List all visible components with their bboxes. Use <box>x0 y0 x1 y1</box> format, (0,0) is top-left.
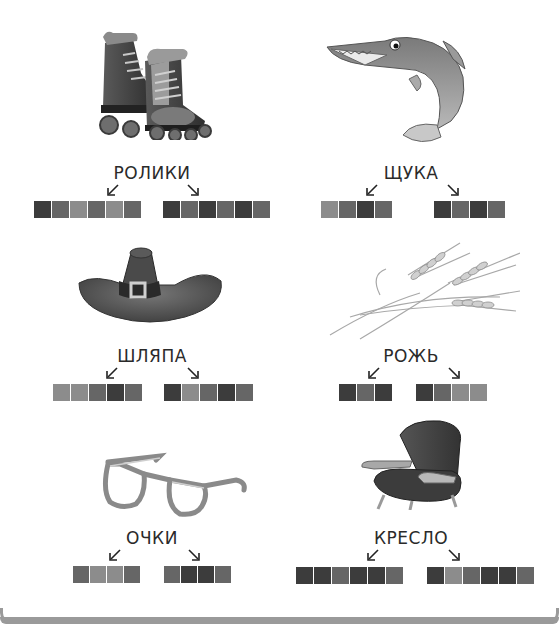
word-label: РОЛИКИ <box>114 163 191 183</box>
sound-block <box>445 567 462 584</box>
right-syllable-strip <box>416 384 487 401</box>
sound-block <box>470 201 487 218</box>
sound-block <box>499 567 516 584</box>
glasses-picture <box>100 450 250 520</box>
sound-block <box>375 201 392 218</box>
left-syllable-strip <box>73 566 140 583</box>
arrow-down-left-icon <box>365 183 379 197</box>
sound-block <box>517 567 534 584</box>
sound-block <box>321 201 338 218</box>
sound-block <box>89 384 106 401</box>
sound-block <box>368 567 385 584</box>
sound-block <box>332 567 349 584</box>
pike-fish-picture <box>325 25 495 145</box>
sound-block <box>427 567 444 584</box>
arrow-down-left-icon <box>108 548 122 562</box>
right-syllable-strip <box>163 201 270 218</box>
word-label: ОЧКИ <box>126 528 178 548</box>
sound-block <box>52 201 69 218</box>
word-label: ЩУКА <box>384 163 439 183</box>
sound-block <box>452 201 469 218</box>
armchair-picture <box>360 415 470 510</box>
sound-block <box>181 201 198 218</box>
sound-block <box>350 567 367 584</box>
sound-block <box>90 566 106 583</box>
sound-block <box>339 201 356 218</box>
sound-block <box>70 201 87 218</box>
sound-block <box>199 201 216 218</box>
sound-block <box>296 567 313 584</box>
sound-block <box>488 201 505 218</box>
sound-block <box>200 384 217 401</box>
sound-block <box>88 201 105 218</box>
sound-block <box>73 566 89 583</box>
sound-block <box>218 384 235 401</box>
sound-block <box>452 384 469 401</box>
sound-block <box>470 384 487 401</box>
arrow-down-right-icon <box>186 366 200 380</box>
sound-block <box>434 201 451 218</box>
sound-block <box>215 566 231 583</box>
left-syllable-strip <box>296 567 403 584</box>
arrow-down-left-icon <box>367 366 381 380</box>
sound-block <box>198 566 214 583</box>
sound-block <box>463 567 480 584</box>
right-syllable-strip <box>164 384 253 401</box>
sound-block <box>386 567 403 584</box>
sound-block <box>182 384 199 401</box>
sound-block <box>125 384 142 401</box>
sound-block <box>339 384 356 401</box>
sound-block <box>357 384 374 401</box>
worksheet-page: РОЛИКИ ЩУКА ШЛЯПА <box>0 0 559 624</box>
arrow-down-right-icon <box>446 183 460 197</box>
arrow-down-right-icon <box>447 548 461 562</box>
sound-block <box>124 566 140 583</box>
sound-block <box>71 384 88 401</box>
sound-block <box>107 566 123 583</box>
sound-block <box>235 201 252 218</box>
sound-block <box>107 384 124 401</box>
sound-block <box>163 201 180 218</box>
word-label: РОЖЬ <box>383 346 439 366</box>
sound-block <box>375 384 392 401</box>
sound-block <box>164 384 181 401</box>
sound-block <box>416 384 433 401</box>
left-syllable-strip <box>339 384 392 401</box>
sound-block <box>434 384 451 401</box>
arrow-down-right-icon <box>186 183 200 197</box>
right-syllable-strip <box>434 201 505 218</box>
arrow-down-left-icon <box>105 366 119 380</box>
sound-block <box>481 567 498 584</box>
sound-block <box>124 201 141 218</box>
sound-block <box>164 566 180 583</box>
sound-block <box>181 566 197 583</box>
left-syllable-strip <box>34 201 141 218</box>
left-syllable-strip <box>53 384 142 401</box>
sound-block <box>106 201 123 218</box>
sound-block <box>236 384 253 401</box>
roller-skates-picture <box>95 25 215 140</box>
word-label: ШЛЯПА <box>117 346 187 366</box>
arrow-down-right-icon <box>447 366 461 380</box>
sound-block <box>217 201 234 218</box>
arrow-down-left-icon <box>106 183 120 197</box>
page-bottom-border <box>0 617 559 624</box>
right-syllable-strip <box>164 566 231 583</box>
right-syllable-strip <box>427 567 534 584</box>
hat-picture <box>75 245 225 330</box>
arrow-down-right-icon <box>187 548 201 562</box>
sound-block <box>53 384 70 401</box>
sound-block <box>34 201 51 218</box>
left-syllable-strip <box>321 201 392 218</box>
rye-ears-picture <box>320 235 520 340</box>
arrow-down-left-icon <box>366 548 380 562</box>
sound-block <box>253 201 270 218</box>
sound-block <box>314 567 331 584</box>
sound-block <box>357 201 374 218</box>
word-label: КРЕСЛО <box>374 528 448 548</box>
